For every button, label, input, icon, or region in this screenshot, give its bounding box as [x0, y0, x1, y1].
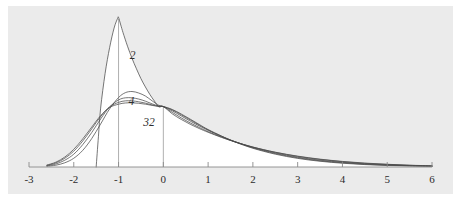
x-tick-label-4: 4	[329, 173, 355, 186]
plot-panel: -3-2-10123456 2432	[8, 6, 453, 194]
x-tick-label-6: 6	[419, 173, 445, 186]
x-tick-label--2: -2	[61, 173, 87, 186]
figure-root: -3-2-10123456 2432	[0, 0, 461, 200]
x-tick-label-3: 3	[285, 173, 311, 186]
curve-label-2: 2	[130, 49, 136, 61]
x-tick-label-2: 2	[240, 173, 266, 186]
x-tick-label-5: 5	[374, 173, 400, 186]
curve-fill-32	[47, 103, 432, 167]
x-tick-label--1: -1	[106, 173, 132, 186]
x-tick-label-0: 0	[150, 173, 176, 186]
curve-fill-group	[47, 17, 432, 167]
x-tick-label-1: 1	[195, 173, 221, 186]
curve-label-32: 32	[143, 116, 155, 128]
plot-canvas	[8, 6, 453, 194]
curve-label-4: 4	[128, 95, 134, 107]
x-tick-label--3: -3	[16, 173, 42, 186]
